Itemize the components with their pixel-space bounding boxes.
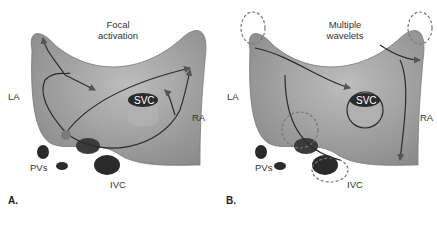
label-pvs-b: PVs (255, 163, 272, 174)
label-svc-a: SVC (134, 95, 155, 106)
panel-a-label: A. (8, 195, 18, 206)
panel-b-label: B. (226, 195, 236, 206)
title-line2: wavelets (315, 31, 375, 42)
label-la-b: LA (227, 92, 239, 103)
label-pvs-a: PVs (30, 163, 47, 174)
label-svc-b: SVC (356, 95, 377, 106)
label-ivc-a: IVC (110, 180, 126, 191)
label-ivc-b: IVC (347, 180, 363, 191)
label-ra-a: RA (192, 113, 205, 124)
title-line2: activation (88, 31, 148, 42)
label-la-a: LA (8, 92, 20, 103)
label-ra-b: RA (420, 113, 433, 124)
focal-source-dot (61, 130, 71, 140)
panel-b-title: Multiple wavelets (315, 20, 375, 42)
panel-a-atria (31, 30, 206, 175)
panel-a-title: Focal activation (88, 20, 148, 42)
